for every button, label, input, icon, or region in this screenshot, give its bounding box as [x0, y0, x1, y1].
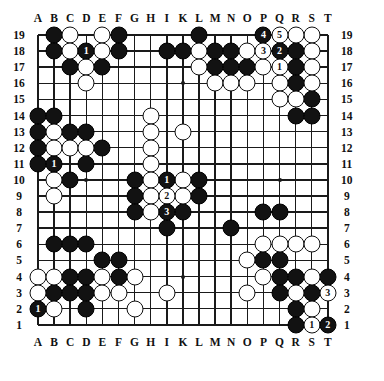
black-stone[interactable]	[62, 123, 79, 140]
black-stone[interactable]	[303, 107, 320, 124]
white-stone[interactable]	[287, 27, 304, 44]
black-stone[interactable]	[94, 139, 111, 156]
black-stone[interactable]	[30, 155, 47, 172]
black-stone[interactable]	[255, 252, 272, 269]
black-stone[interactable]	[287, 268, 304, 285]
black-stone[interactable]	[126, 171, 143, 188]
white-stone[interactable]	[174, 188, 191, 205]
white-stone[interactable]	[126, 268, 143, 285]
white-stone[interactable]	[94, 27, 111, 44]
black-stone[interactable]	[46, 236, 63, 253]
white-stone[interactable]	[110, 284, 127, 301]
white-stone[interactable]	[94, 43, 111, 60]
black-stone[interactable]	[223, 220, 240, 237]
white-stone[interactable]	[142, 139, 159, 156]
white-stone[interactable]	[191, 43, 208, 60]
white-stone[interactable]	[255, 59, 272, 76]
white-stone[interactable]	[303, 59, 320, 76]
white-stone[interactable]	[46, 268, 63, 285]
white-stone[interactable]	[30, 284, 47, 301]
numbered-black-stone[interactable]: 1	[30, 300, 47, 317]
black-stone[interactable]	[191, 171, 208, 188]
numbered-black-stone[interactable]: 2	[319, 316, 336, 333]
black-stone[interactable]	[287, 75, 304, 92]
white-stone[interactable]	[62, 27, 79, 44]
black-stone[interactable]	[94, 252, 111, 269]
white-stone[interactable]	[239, 284, 256, 301]
black-stone[interactable]	[191, 188, 208, 205]
black-stone[interactable]	[46, 284, 63, 301]
white-stone[interactable]	[303, 268, 320, 285]
white-stone[interactable]	[142, 123, 159, 140]
numbered-black-stone[interactable]: 1	[158, 171, 175, 188]
black-stone[interactable]	[30, 139, 47, 156]
white-stone[interactable]	[303, 43, 320, 60]
black-stone[interactable]	[303, 91, 320, 108]
white-stone[interactable]	[287, 284, 304, 301]
white-stone[interactable]	[239, 43, 256, 60]
black-stone[interactable]	[271, 268, 288, 285]
black-stone[interactable]	[319, 268, 336, 285]
black-stone[interactable]	[287, 59, 304, 76]
white-stone[interactable]	[142, 107, 159, 124]
white-stone[interactable]	[303, 300, 320, 317]
black-stone[interactable]	[62, 59, 79, 76]
black-stone[interactable]	[78, 284, 95, 301]
black-stone[interactable]	[126, 204, 143, 221]
black-stone[interactable]	[62, 171, 79, 188]
black-stone[interactable]	[78, 268, 95, 285]
black-stone[interactable]	[78, 155, 95, 172]
numbered-white-stone[interactable]: 2	[158, 188, 175, 205]
numbered-black-stone[interactable]: 3	[158, 204, 175, 221]
white-stone[interactable]	[78, 59, 95, 76]
numbered-black-stone[interactable]: 1	[78, 43, 95, 60]
white-stone[interactable]	[303, 236, 320, 253]
numbered-white-stone[interactable]: 3	[319, 284, 336, 301]
black-stone[interactable]	[207, 43, 224, 60]
white-stone[interactable]	[255, 268, 272, 285]
white-stone[interactable]	[287, 91, 304, 108]
black-stone[interactable]	[94, 59, 111, 76]
white-stone[interactable]	[142, 188, 159, 205]
white-stone[interactable]	[223, 75, 240, 92]
black-stone[interactable]	[287, 43, 304, 60]
black-stone[interactable]	[191, 27, 208, 44]
white-stone[interactable]	[62, 43, 79, 60]
white-stone[interactable]	[158, 284, 175, 301]
black-stone[interactable]	[207, 59, 224, 76]
black-stone[interactable]	[255, 204, 272, 221]
white-stone[interactable]	[287, 236, 304, 253]
white-stone[interactable]	[191, 59, 208, 76]
white-stone[interactable]	[78, 75, 95, 92]
black-stone[interactable]	[174, 204, 191, 221]
white-stone[interactable]	[207, 75, 224, 92]
black-stone[interactable]	[303, 284, 320, 301]
white-stone[interactable]	[142, 171, 159, 188]
numbered-white-stone[interactable]: 1	[303, 316, 320, 333]
white-stone[interactable]	[142, 204, 159, 221]
black-stone[interactable]	[62, 284, 79, 301]
white-stone[interactable]	[94, 284, 111, 301]
white-stone[interactable]	[46, 171, 63, 188]
white-stone[interactable]	[239, 75, 256, 92]
white-stone[interactable]	[174, 171, 191, 188]
black-stone[interactable]	[223, 43, 240, 60]
numbered-white-stone[interactable]: 5	[271, 27, 288, 44]
numbered-white-stone[interactable]: 1	[271, 59, 288, 76]
white-stone[interactable]	[255, 236, 272, 253]
black-stone[interactable]	[271, 284, 288, 301]
black-stone[interactable]	[287, 300, 304, 317]
white-stone[interactable]	[94, 268, 111, 285]
numbered-black-stone[interactable]: 4	[255, 27, 272, 44]
white-stone[interactable]	[46, 123, 63, 140]
numbered-black-stone[interactable]: 1	[46, 155, 63, 172]
white-stone[interactable]	[62, 139, 79, 156]
white-stone[interactable]	[46, 300, 63, 317]
black-stone[interactable]	[46, 107, 63, 124]
black-stone[interactable]	[239, 59, 256, 76]
black-stone[interactable]	[271, 204, 288, 221]
black-stone[interactable]	[62, 236, 79, 253]
black-stone[interactable]	[46, 43, 63, 60]
white-stone[interactable]	[30, 268, 47, 285]
black-stone[interactable]	[62, 268, 79, 285]
